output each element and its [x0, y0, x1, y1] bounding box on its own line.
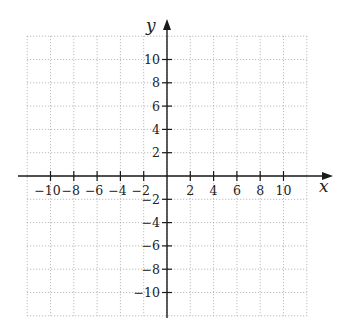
axes [18, 19, 333, 318]
x-axis-label: x [319, 176, 329, 196]
y-tick-label: −6 [142, 238, 160, 253]
x-tick-label: 8 [256, 183, 264, 198]
y-tick-label: −8 [142, 262, 160, 277]
y-tick-label: 6 [152, 99, 160, 114]
x-tick-labels: −10−8−6−4−2246810 [34, 183, 291, 198]
y-tick-label: −4 [142, 215, 160, 230]
x-tick-label: 4 [210, 183, 218, 198]
x-tick-label: −4 [108, 183, 126, 198]
x-tick-label: 10 [276, 183, 292, 198]
y-tick-label: 10 [144, 52, 160, 67]
x-tick-label: −10 [34, 183, 60, 198]
y-tick-label: −10 [134, 285, 160, 300]
y-tick-label: 4 [152, 122, 160, 137]
x-tick-label: −6 [85, 183, 103, 198]
x-tick-label: −8 [62, 183, 80, 198]
x-tick-label: 2 [186, 183, 194, 198]
y-tick-label: −2 [142, 192, 160, 207]
coordinate-plane: −10−8−6−4−2246810 −10−8−6−4−2246810 x y [0, 0, 350, 328]
x-tick-label: 6 [233, 183, 241, 198]
y-tick-label: 8 [152, 75, 160, 90]
y-axis-arrow-icon [163, 19, 171, 30]
y-tick-label: 2 [152, 145, 160, 160]
y-axis-label: y [145, 15, 156, 35]
